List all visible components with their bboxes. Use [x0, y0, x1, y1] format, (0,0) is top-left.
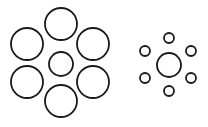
surround-circle	[11, 28, 43, 60]
surround-circle	[186, 73, 196, 83]
ebbinghaus-illusion-diagram	[0, 0, 208, 127]
surround-circle	[140, 46, 150, 56]
center-circle	[157, 53, 181, 77]
surround-circle	[164, 86, 174, 96]
surround-circle	[77, 28, 109, 60]
surround-circle	[11, 66, 43, 98]
surround-circle	[45, 8, 77, 40]
surround-circle	[186, 46, 196, 56]
small-surround-group	[140, 33, 196, 96]
surround-circle	[140, 73, 150, 83]
surround-circle	[77, 66, 109, 98]
center-circle	[49, 52, 73, 76]
large-surround-group	[11, 8, 109, 117]
surround-circle	[164, 33, 174, 43]
surround-circle	[45, 85, 77, 117]
